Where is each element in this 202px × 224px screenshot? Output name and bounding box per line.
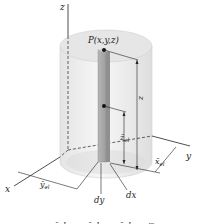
x-el-label: x̄el <box>155 157 165 167</box>
cylinder-volume-element-diagram: z x y P(x,y,z) z z̄el <box>0 0 202 224</box>
caption-partial: x̄el = x, ȳel = y, z̄el = z/2 <box>54 221 155 224</box>
point-p-label: P(x,y,z) <box>87 35 119 45</box>
y-axis-label: y <box>185 151 192 161</box>
z-axis-label: z <box>59 2 65 12</box>
y-el-label: ȳel <box>39 180 50 190</box>
dx-label: dx <box>126 190 136 200</box>
z-dimension-label: z <box>137 95 146 101</box>
x-el-dimension: x̄el <box>155 147 176 172</box>
x-axis-label: x <box>5 184 10 194</box>
dy-label: dy <box>94 195 104 205</box>
x-axis: x <box>5 150 68 194</box>
